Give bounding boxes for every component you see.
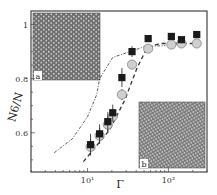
inset-b-image [139,102,205,168]
square-marker [178,36,185,43]
inset-a: a [33,13,100,81]
square-marker [168,33,175,40]
inset-b: b [139,102,205,169]
circle-marker [192,39,201,48]
square-marker [87,141,94,148]
inset-a-image [33,13,100,80]
y-tick-label-1: 1 [23,21,28,30]
square-marker [118,74,125,81]
square-marker [193,31,200,38]
x-tick-label-100: 10² [162,176,175,185]
y-tick-label-0.8: 0.8 [15,75,28,84]
circle-marker [127,60,136,69]
square-marker [96,130,103,137]
square-marker [145,35,152,42]
circle-marker [167,40,176,49]
y-tick-label-0.6: 0.6 [15,129,28,138]
circle-marker [144,44,153,53]
chart: a b 0.6 0.8 1 10¹ 10² Γ N6/N [0,0,217,195]
square-marker [109,109,116,116]
inset-a-label: a [36,72,41,81]
circle-marker [117,90,126,99]
y-axis-title: N6/N [5,91,25,124]
x-tick-label-10: 10¹ [81,176,94,185]
square-marker [128,48,135,55]
square-marker [104,118,111,125]
inset-b-label: b [142,160,147,169]
x-axis-title: Γ [116,178,124,191]
